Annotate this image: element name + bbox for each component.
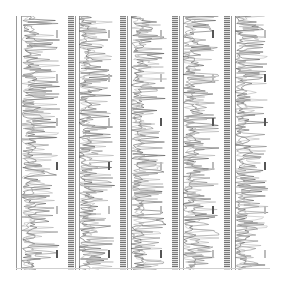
- chromatogram-panel-4: [172, 16, 222, 270]
- position-tick: [212, 30, 214, 38]
- position-tick: [160, 74, 162, 82]
- chromatogram-panel-3: [120, 16, 170, 270]
- position-tick: [56, 206, 58, 214]
- position-tick: [108, 30, 110, 38]
- position-tick: [212, 118, 214, 126]
- position-tick: [108, 74, 110, 82]
- trace-svg: [235, 16, 270, 270]
- base-call-strip: [68, 16, 74, 270]
- position-tick: [212, 74, 214, 82]
- position-tick: [108, 118, 110, 126]
- position-tick: [264, 30, 266, 38]
- position-tick: [56, 250, 58, 258]
- trace-svg: [79, 16, 117, 270]
- position-tick: [56, 30, 58, 38]
- position-tick: [160, 206, 162, 214]
- position-tick: [264, 74, 266, 82]
- base-call-strip: [120, 16, 126, 270]
- position-tick: [108, 206, 110, 214]
- position-tick: [108, 250, 110, 258]
- position-tick: [212, 206, 214, 214]
- position-tick: [264, 206, 266, 214]
- base-call-strip: [224, 16, 230, 270]
- position-tick: [56, 74, 58, 82]
- trace-signal: [22, 16, 62, 270]
- position-tick: [212, 162, 214, 170]
- trace-line: [183, 16, 219, 270]
- trace-signal: [79, 16, 117, 270]
- page-edge: [16, 268, 270, 269]
- trace-signal: [235, 16, 270, 270]
- position-tick: [56, 162, 58, 170]
- chromatogram-sheet: [16, 16, 270, 270]
- chromatogram-panel-5: [224, 16, 270, 270]
- trace-svg: [183, 16, 221, 270]
- position-tick: [212, 250, 214, 258]
- position-tick: [264, 162, 266, 170]
- trace-svg: [22, 16, 62, 270]
- position-tick: [264, 118, 266, 126]
- trace-svg: [131, 16, 169, 270]
- position-tick: [160, 162, 162, 170]
- position-tick: [264, 250, 266, 258]
- position-tick: [160, 250, 162, 258]
- position-tick: [160, 118, 162, 126]
- trace-signal: [131, 16, 169, 270]
- base-call-strip: [172, 16, 178, 270]
- chromatogram-panel-1: [16, 16, 66, 270]
- chromatogram-panel-2: [68, 16, 118, 270]
- position-tick: [160, 30, 162, 38]
- position-tick: [108, 162, 110, 170]
- trace-signal: [183, 16, 221, 270]
- position-tick: [56, 118, 58, 126]
